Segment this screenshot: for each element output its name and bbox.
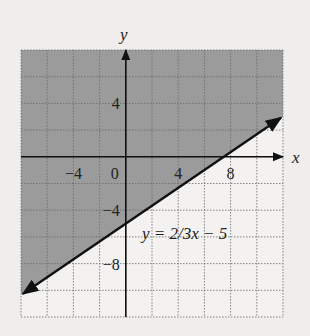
x-tick-label: −4 xyxy=(65,165,82,182)
inequality-graph: −40484−4−8 x y y = 2/3x − 5 xyxy=(0,0,310,336)
equation-label: y = 2/3x − 5 xyxy=(140,224,227,243)
y-tick-label: 4 xyxy=(112,95,120,112)
x-axis-label: x xyxy=(291,148,300,167)
x-tick-label: 8 xyxy=(227,165,235,182)
y-tick-label: −8 xyxy=(103,256,120,273)
x-tick-label: 0 xyxy=(111,165,119,182)
y-axis-label: y xyxy=(118,25,128,44)
x-tick-label: 4 xyxy=(174,165,182,182)
y-tick-label: −4 xyxy=(103,202,120,219)
